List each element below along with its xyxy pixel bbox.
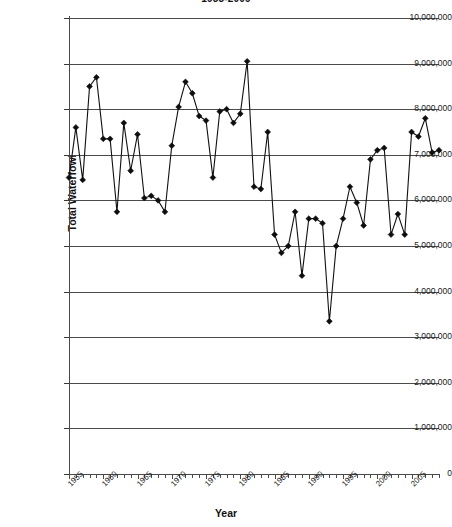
gridline	[69, 292, 439, 293]
x-axis-tick-mark	[398, 474, 399, 478]
x-axis-tick-mark	[131, 474, 132, 478]
y-axis-tick-label: 3,000,000	[392, 331, 452, 341]
y-axis-tick-label: 1,000,000	[392, 422, 452, 432]
plot-gridlines	[69, 18, 439, 474]
x-axis-tick-mark	[227, 474, 228, 478]
y-axis-tick-label: 4,000,000	[392, 286, 452, 296]
y-axis-tick-label: 6,000,000	[392, 194, 452, 204]
x-axis-tick-mark	[124, 474, 125, 478]
x-axis-tick-mark	[165, 474, 166, 478]
chart-figure: 1955-2009 Total Waterfowl Year 01,000,00…	[0, 0, 452, 527]
x-axis-tick-mark	[199, 474, 200, 478]
y-axis-tick-label: 5,000,000	[392, 240, 452, 250]
x-axis-tick-mark	[96, 474, 97, 478]
gridline	[69, 109, 439, 110]
x-axis-title: Year	[0, 507, 452, 519]
x-axis-tick-mark	[233, 474, 234, 478]
x-axis-tick-mark	[432, 474, 433, 478]
chart-title: 1955-2009	[0, 0, 452, 5]
x-axis-tick-mark	[268, 474, 269, 478]
gridline	[69, 200, 439, 201]
y-axis-tick-label: 10,000,000	[392, 12, 452, 22]
y-axis-tick-label: 9,000,000	[392, 58, 452, 68]
gridline	[69, 383, 439, 384]
y-axis-tick-label: 8,000,000	[392, 103, 452, 113]
gridline	[69, 246, 439, 247]
gridline	[69, 428, 439, 429]
x-axis-tick-mark	[302, 474, 303, 478]
x-axis-tick-mark	[364, 474, 365, 478]
x-axis-tick-mark	[295, 474, 296, 478]
x-axis-tick-mark	[405, 474, 406, 478]
x-axis-tick-mark	[439, 474, 440, 478]
x-axis-tick-mark	[370, 474, 371, 478]
gridline	[69, 18, 439, 19]
x-axis-tick-mark	[158, 474, 159, 478]
gridline	[69, 64, 439, 65]
x-axis-tick-mark	[90, 474, 91, 478]
x-axis-tick-mark	[329, 474, 330, 478]
x-axis-tick-mark	[336, 474, 337, 478]
gridline	[69, 155, 439, 156]
y-axis-tick-label: 7,000,000	[392, 149, 452, 159]
x-axis-tick-mark	[192, 474, 193, 478]
y-axis-tick-label: 2,000,000	[392, 377, 452, 387]
gridline	[69, 337, 439, 338]
y-axis-line	[69, 16, 70, 476]
x-axis-tick-mark	[261, 474, 262, 478]
